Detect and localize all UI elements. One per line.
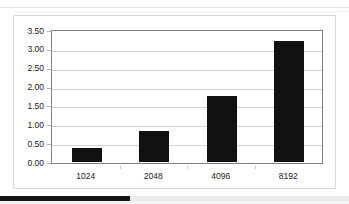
y-axis-tick-label: 2.00: [27, 83, 44, 92]
y-axis-tick-mark: [47, 144, 51, 145]
y-axis-tick-mark: [47, 88, 51, 89]
x-axis-tick-label: 4096: [191, 171, 251, 181]
bar-series: [53, 32, 321, 162]
x-axis-tick-label: 1024: [56, 171, 116, 181]
y-axis-tick-mark: [47, 163, 51, 164]
y-axis-tick-label: 0.00: [27, 159, 44, 168]
y-axis-tick-label: 3.50: [27, 27, 44, 36]
x-axis-tick-mark: [120, 166, 121, 169]
chart-card: 0.000.501.001.502.002.503.003.50 1024204…: [13, 15, 336, 189]
top-divider-rule: [0, 7, 349, 8]
y-axis-tick-mark: [47, 31, 51, 32]
x-axis-tick-mark: [255, 166, 256, 169]
bar: [274, 41, 304, 162]
bottom-strip-light-segment: [130, 196, 349, 201]
x-axis-tick-label: 2048: [123, 171, 183, 181]
y-axis-tick-label: 2.50: [27, 64, 44, 73]
x-axis-tick-label: 8192: [258, 171, 318, 181]
y-axis-tick-label: 0.50: [27, 140, 44, 149]
y-axis-tick-label: 1.00: [27, 121, 44, 130]
y-axis-tick-mark: [47, 50, 51, 51]
y-axis-tick-mark: [47, 106, 51, 107]
y-axis-tick-mark: [47, 125, 51, 126]
x-axis-tick-mark: [187, 166, 188, 169]
plot-area: [51, 30, 323, 164]
y-axis-tick-label: 1.50: [27, 102, 44, 111]
bottom-strip: [0, 196, 349, 204]
y-axis-tick-mark: [47, 69, 51, 70]
y-axis-tick-label: 3.00: [27, 45, 44, 54]
bottom-strip-dark-segment: [0, 196, 130, 201]
bar: [207, 96, 237, 162]
top-secondary-rule: [16, 11, 349, 12]
y-axis-tick-labels: 0.000.501.001.502.002.503.003.50: [14, 30, 47, 164]
bar: [72, 148, 102, 162]
x-axis-tick-labels: 1024204840968192: [51, 166, 323, 182]
bar: [139, 131, 169, 162]
